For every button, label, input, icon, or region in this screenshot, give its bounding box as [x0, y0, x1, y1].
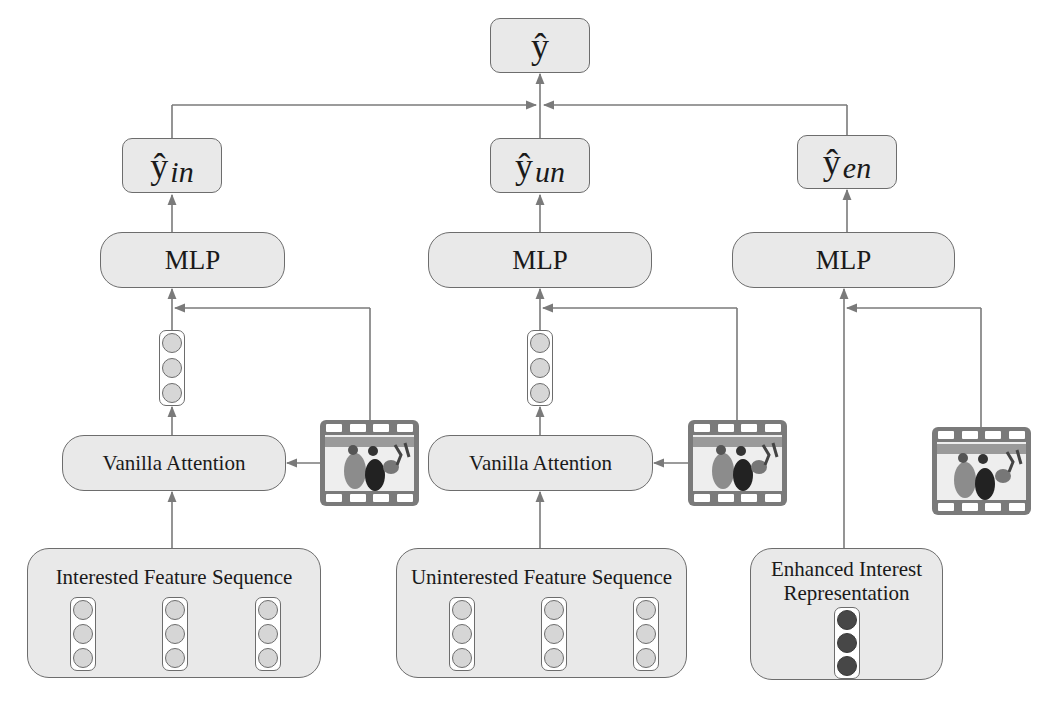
embedding-vector-icon: [162, 597, 188, 671]
embedding-vector-icon: [527, 330, 553, 406]
final-prediction-symbol: ŷ: [531, 25, 549, 67]
mlp-label: MLP: [165, 245, 221, 276]
mlp-label: MLP: [512, 245, 568, 276]
prediction-subscript: in: [170, 155, 193, 189]
embedding-vector-icon: [70, 597, 96, 671]
film-strip-icon: [688, 420, 787, 506]
film-strip-icon: [320, 420, 419, 506]
attention-label: Vanilla Attention: [103, 451, 246, 476]
uninterested-feature-sequence-box: Uninterested Feature Sequence: [396, 548, 687, 678]
mlp-box-enhanced: MLP: [732, 232, 955, 288]
prediction-symbol: ŷ: [823, 141, 841, 183]
embedding-vector-icon: [541, 597, 567, 671]
embedding-vector-icon: [255, 597, 281, 671]
vector-element: [162, 333, 182, 353]
prediction-box-enhanced: ŷen: [797, 135, 897, 189]
vector-element: [530, 358, 550, 378]
vector-element: [162, 383, 182, 403]
vector-element: [162, 358, 182, 378]
enhanced-embedding-vector-icon: [834, 607, 860, 679]
embedding-vector-icon: [159, 330, 185, 406]
mlp-box-uninterested: MLP: [428, 232, 652, 288]
embedding-vector-icon: [633, 597, 659, 671]
video-frame-image: [693, 435, 782, 491]
sequence-label: Uninterested Feature Sequence: [411, 565, 672, 589]
final-prediction-box: ŷ: [490, 18, 590, 73]
sequence-label-line2: Representation: [784, 581, 910, 605]
vanilla-attention-box-interested: Vanilla Attention: [62, 435, 286, 491]
embedding-vector-icon: [449, 597, 475, 671]
prediction-box-uninterested: ŷun: [490, 138, 590, 193]
mlp-box-interested: MLP: [100, 232, 285, 288]
prediction-box-interested: ŷin: [122, 138, 222, 193]
interested-feature-sequence-box: Interested Feature Sequence: [27, 548, 321, 678]
video-frame-image: [937, 442, 1026, 500]
vanilla-attention-box-uninterested: Vanilla Attention: [428, 435, 653, 491]
video-frame-image: [325, 435, 414, 491]
sequence-label: Interested Feature Sequence: [56, 565, 293, 589]
film-strip-icon: [932, 427, 1031, 515]
prediction-subscript: un: [535, 155, 565, 189]
enhanced-interest-representation-box: Enhanced Interest Representation: [750, 548, 943, 680]
sequence-label-line1: Enhanced Interest: [771, 557, 922, 581]
attention-label: Vanilla Attention: [469, 451, 612, 476]
vector-element: [530, 383, 550, 403]
prediction-subscript: en: [843, 151, 871, 185]
mlp-label: MLP: [816, 245, 872, 276]
vector-element: [530, 333, 550, 353]
prediction-symbol: ŷ: [150, 145, 168, 187]
prediction-symbol: ŷ: [515, 145, 533, 187]
